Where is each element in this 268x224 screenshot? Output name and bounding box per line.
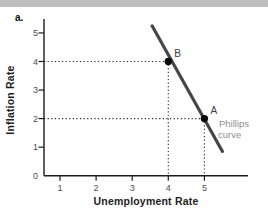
figure-panel: 12345012345BAPhillipscurve a. Inflation … (0, 0, 268, 224)
y-tick-label-3: 3 (33, 85, 38, 95)
x-axis-title: Unemployment Rate (94, 195, 199, 207)
x-tick-label-4: 4 (166, 183, 171, 193)
x-tick-label-3: 3 (130, 183, 135, 193)
point-label-B: B (174, 48, 181, 59)
y-axis-title: Inflation Rate (4, 65, 16, 134)
y-tick-label-4: 4 (33, 57, 38, 67)
x-tick-label-1: 1 (57, 183, 62, 193)
curve-annotation-label: Phillipscurve (218, 118, 249, 141)
data-point-B (165, 58, 172, 65)
panel-label: a. (15, 12, 23, 23)
x-tick-label-2: 2 (94, 183, 99, 193)
y-tick-label-5: 5 (33, 28, 38, 38)
y-tick-label-1: 1 (33, 142, 38, 152)
data-point-A (201, 115, 208, 122)
point-label-A: A (210, 105, 217, 116)
y-tick-label-0: 0 (33, 171, 38, 181)
y-tick-label-2: 2 (33, 114, 38, 124)
x-tick-label-5: 5 (202, 183, 207, 193)
phillips-curve-chart: 12345012345BAPhillipscurve (0, 0, 268, 224)
phillips-curve-line (152, 26, 222, 152)
